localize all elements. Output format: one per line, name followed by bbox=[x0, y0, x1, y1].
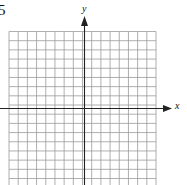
y-axis-arrow-icon bbox=[81, 16, 88, 26]
x-axis-arrow-icon bbox=[163, 105, 172, 112]
coordinate-grid bbox=[0, 0, 187, 185]
